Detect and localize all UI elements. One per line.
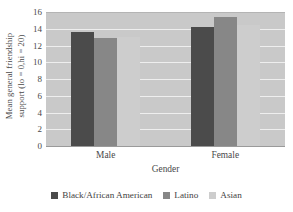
y-axis-tick-label: 10	[33, 58, 42, 67]
y-axis-tick-label: 6	[38, 91, 43, 100]
x-axis-line	[46, 146, 285, 147]
bar	[237, 25, 260, 147]
bar	[71, 32, 94, 147]
y-axis-tick-label: 16	[33, 8, 42, 17]
legend-label: Black/African American	[62, 190, 152, 200]
y-axis-tick-labels: 0246810121416	[26, 12, 42, 146]
y-axis-tick-label: 4	[38, 108, 43, 117]
y-axis-title-line-2: support (lo = 0,hi = 20)	[15, 33, 27, 119]
bar	[214, 17, 237, 147]
x-axis-tick-label: Male	[96, 149, 115, 161]
y-axis-tick-label: 8	[38, 75, 43, 84]
bar	[94, 38, 117, 147]
bar	[191, 27, 214, 147]
chart-legend: Black/African AmericanLatinoAsian	[0, 190, 293, 200]
bar-chart-figure: Mean general friendship support (lo = 0,…	[0, 0, 293, 212]
legend-entry[interactable]: Asian	[209, 190, 241, 200]
x-axis-title: Gender	[46, 164, 285, 174]
y-axis-tick-label: 12	[33, 41, 42, 50]
legend-entry[interactable]: Latino	[163, 190, 198, 200]
y-axis-tick-label: 2	[38, 125, 43, 134]
legend-entry[interactable]: Black/African American	[51, 190, 152, 200]
y-axis-tick-label: 0	[38, 142, 43, 151]
legend-label: Latino	[174, 190, 198, 200]
bar	[117, 37, 140, 147]
legend-swatch-icon	[163, 192, 170, 199]
legend-label: Asian	[220, 190, 241, 200]
legend-swatch-icon	[209, 192, 216, 199]
y-axis-title-line-1: Mean general friendship	[4, 33, 16, 119]
y-axis-tick-label: 14	[33, 24, 42, 33]
legend-swatch-icon	[51, 192, 58, 199]
x-axis-tick-label: Female	[211, 149, 239, 161]
plot-area	[46, 12, 285, 147]
